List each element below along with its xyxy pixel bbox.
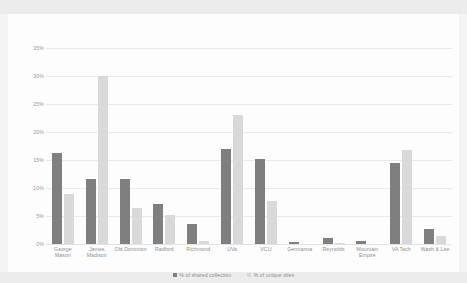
bar-group [320,48,348,244]
bar-shared[interactable] [356,241,366,244]
bar-group [150,48,178,244]
bar-unique[interactable] [98,76,108,244]
x-axis-tick-label: Richmond [181,246,215,252]
bar-unique[interactable] [335,243,345,244]
bar-shared[interactable] [52,153,62,244]
x-axis-tick-label: Reynolds [317,246,351,252]
legend-label-shared: % of shared collection [179,272,231,278]
chart-figure: 35%30%25%20%15%10%5%0% George MasonJames… [0,0,467,283]
bar-group [218,48,246,244]
y-axis-tick-label: 0% [10,241,44,247]
bar-unique[interactable] [402,150,412,244]
bar-group [83,48,111,244]
page-band-top [0,0,467,14]
bar-chart: 35%30%25%20%15%10%5%0% George MasonJames… [8,14,459,272]
y-axis-tick-label: 10% [10,185,44,191]
chart-legend: % of shared collection % of unique title… [8,272,459,278]
x-axis-tick-label: UVa [215,246,249,252]
x-axis-tick-label: Old Dominion [114,246,148,252]
gridline-0% [46,244,452,245]
y-axis-tick-label: 5% [10,213,44,219]
bar-group [387,48,415,244]
y-axis-tick-label: 35% [10,45,44,51]
x-axis-tick-label: George Mason [46,246,80,259]
bar-unique[interactable] [267,201,277,244]
bar-group [286,48,314,244]
x-axis-tick-label: Mountain Empire [351,246,385,259]
y-axis-tick-label: 20% [10,129,44,135]
legend-item-shared-collection[interactable]: % of shared collection [173,272,231,278]
bar-shared[interactable] [289,242,299,244]
bar-shared[interactable] [153,204,163,244]
bar-shared[interactable] [120,179,130,244]
legend-item-unique-titles[interactable]: % of unique titles [247,272,294,278]
bar-shared[interactable] [323,238,333,244]
x-axis-tick-label: VA Tech [384,246,418,252]
y-axis: 35%30%25%20%15%10%5%0% [8,48,44,244]
y-axis-tick-label: 30% [10,73,44,79]
bar-group [353,48,381,244]
bar-group [421,48,449,244]
bar-group [117,48,145,244]
bar-unique[interactable] [436,236,446,244]
legend-label-unique: % of unique titles [254,272,294,278]
bar-shared[interactable] [86,179,96,244]
legend-swatch-icon-shared [173,273,177,277]
y-axis-tick-label: 15% [10,157,44,163]
bar-shared[interactable] [424,229,434,244]
bar-unique[interactable] [233,115,243,244]
bar-group [49,48,77,244]
x-axis: George MasonJames MadisonOld DominionRad… [46,246,452,270]
bar-shared[interactable] [390,163,400,244]
bar-group [184,48,212,244]
bar-group [252,48,280,244]
y-axis-tick-label: 25% [10,101,44,107]
bar-unique[interactable] [132,208,142,244]
x-axis-tick-label: VCU [249,246,283,252]
bar-unique[interactable] [165,215,175,244]
bar-unique[interactable] [64,194,74,244]
bar-unique[interactable] [199,241,209,244]
x-axis-tick-label: James Madison [80,246,114,259]
bar-series-container [46,48,452,244]
bar-shared[interactable] [187,224,197,244]
bar-shared[interactable] [221,149,231,244]
x-axis-tick-label: Radford [148,246,182,252]
x-axis-tick-label: Wash & Lee [418,246,452,252]
bar-shared[interactable] [255,159,265,244]
legend-swatch-icon-unique [247,273,251,277]
x-axis-tick-label: Germanna [283,246,317,252]
